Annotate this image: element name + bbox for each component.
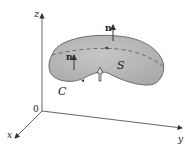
- normal-label-left: n: [66, 52, 73, 62]
- origin-label: 0: [33, 104, 39, 114]
- curve-label: C: [58, 85, 67, 98]
- y-axis-label: y: [177, 134, 184, 144]
- y-axis: [42, 111, 182, 128]
- surface-diagram: z x y 0 S C n n: [0, 0, 185, 150]
- surface-label: S: [117, 59, 125, 72]
- x-axis: [15, 111, 42, 138]
- z-axis-label: z: [33, 8, 40, 19]
- normal-label-top: n: [105, 23, 112, 33]
- x-axis-label: x: [7, 130, 12, 140]
